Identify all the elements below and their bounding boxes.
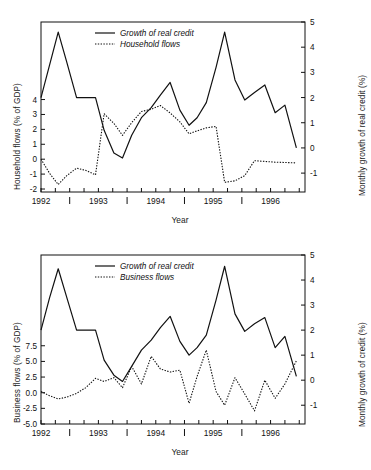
y2-tick-label: 2 [310, 326, 315, 335]
y-tick-label: -1 [30, 170, 38, 179]
y2-tick-label: 5 [310, 18, 315, 27]
y2-tick-label: 4 [310, 43, 315, 52]
y2-tick-label: 5 [310, 251, 315, 260]
series-line-dotted [41, 106, 296, 185]
y2-tick-label: 1 [310, 351, 315, 360]
y-tick-label: 3 [32, 110, 37, 119]
x-tick-label: 1996 [261, 196, 280, 206]
chart-panel-household: 43210-1-2543210-119921993199419951996Gro… [0, 0, 371, 235]
y-tick-label: 4 [32, 96, 37, 105]
y2-tick-label: 4 [310, 276, 315, 285]
figure-container: 43210-1-2543210-119921993199419951996Gro… [0, 0, 371, 470]
business-plot-svg: 7.55.02.50.0-2.5-5.0543210-1199219931994… [0, 235, 371, 470]
y2-tick-label: 1 [310, 119, 315, 128]
y2-tick-label: -1 [310, 401, 318, 410]
household-plot-svg: 43210-1-2543210-119921993199419951996Gro… [0, 0, 371, 235]
chart-panel-business: 7.55.02.50.0-2.5-5.0543210-1199219931994… [0, 235, 371, 470]
y2-tick-label: 0 [310, 144, 315, 153]
y2-tick-label: 0 [310, 376, 315, 385]
y-tick-label: 1 [32, 140, 37, 149]
x-tick-label: 1994 [146, 196, 165, 206]
x-tick-label: 1995 [204, 196, 223, 206]
legend-label: Growth of real credit [120, 29, 194, 38]
y2-tick-label: -1 [310, 169, 318, 178]
business-y-axis-title: Business flows (% of GDP) [13, 322, 22, 423]
x-tick-label: 1994 [146, 428, 165, 438]
series-line-dotted [41, 350, 296, 411]
y-tick-label: 2.5 [26, 373, 38, 382]
series-line-solid [41, 266, 296, 381]
x-tick-label: 1992 [32, 428, 51, 438]
household-y-axis-title: Household flows (% of GDP) [13, 83, 22, 190]
y-tick-label: 5.0 [26, 357, 38, 366]
y-tick-label: -2.5 [23, 404, 38, 413]
household-y2-axis-title: Monthly growth of real credit (%) [358, 75, 367, 196]
x-tick-label: 1995 [204, 428, 223, 438]
x-tick-label: 1993 [89, 428, 108, 438]
legend-label: Business flows [120, 273, 174, 282]
y-tick-label: 7.5 [26, 342, 38, 351]
household-x-axis-title: Year [150, 215, 210, 225]
y-tick-label: 0 [32, 155, 37, 164]
legend-label: Household flows [120, 40, 180, 49]
y2-tick-label: 2 [310, 94, 315, 103]
y-tick-label: -2 [30, 185, 38, 194]
legend-label: Growth of real credit [120, 262, 194, 271]
y-tick-label: 0.0 [26, 389, 38, 398]
x-tick-label: 1992 [32, 196, 51, 206]
business-x-axis-title: Year [150, 447, 210, 457]
x-tick-label: 1993 [89, 196, 108, 206]
y-tick-label: 2 [32, 125, 37, 134]
x-tick-label: 1996 [261, 428, 280, 438]
business-y2-axis-title: Monthly growth of credit (%) [358, 322, 367, 427]
y2-tick-label: 3 [310, 68, 315, 77]
series-line-solid [41, 32, 296, 158]
y2-tick-label: 3 [310, 301, 315, 310]
